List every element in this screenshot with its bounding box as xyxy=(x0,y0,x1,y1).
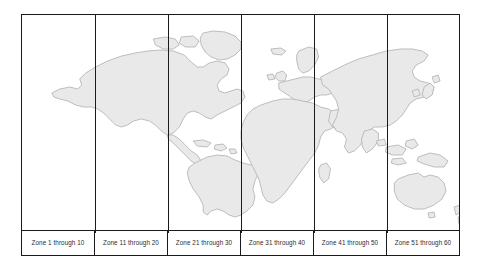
zone-label-cell-2: Zone 11 through 20 xyxy=(95,231,168,255)
southeast-asia-islands xyxy=(391,158,406,165)
arctic-islands xyxy=(153,37,179,49)
africa xyxy=(241,99,339,203)
british-isles xyxy=(275,71,287,81)
new-zealand xyxy=(454,205,459,215)
world-map-svg xyxy=(22,15,459,233)
zone-label-text: Zone 51 through 60 xyxy=(395,240,451,246)
zone-label-cell-6: Zone 51 through 60 xyxy=(387,231,459,255)
caribbean-islands xyxy=(229,149,237,154)
zone-label-cell-5: Zone 41 through 50 xyxy=(314,231,387,255)
zone-label-cell-1: Zone 1 through 10 xyxy=(22,231,95,255)
world-map-area xyxy=(22,15,459,233)
zone-label-cell-4: Zone 31 through 40 xyxy=(241,231,314,255)
greenland xyxy=(200,31,241,60)
zone-label-text: Zone 31 through 40 xyxy=(249,240,305,246)
southeast-asia-islands xyxy=(405,139,418,149)
zone-label-text: Zone 21 through 30 xyxy=(176,240,232,246)
japan xyxy=(432,75,440,83)
utm-zone-world-map: Zone 1 through 10 Zone 11 through 20 Zon… xyxy=(21,14,460,256)
british-isles xyxy=(267,74,275,80)
australia xyxy=(428,212,435,218)
southeast-asia-islands xyxy=(385,145,406,155)
zone-label-text: Zone 1 through 10 xyxy=(32,240,85,246)
caribbean-islands xyxy=(214,144,227,151)
zone-label-cell-3: Zone 21 through 30 xyxy=(168,231,241,255)
asia xyxy=(361,129,378,153)
zone-label-text: Zone 41 through 50 xyxy=(322,240,378,246)
madagascar xyxy=(319,163,331,183)
asia xyxy=(412,89,420,97)
caribbean-islands xyxy=(193,140,211,147)
north-america xyxy=(52,50,245,135)
arctic-islands xyxy=(179,36,199,47)
zone-label-row: Zone 1 through 10 Zone 11 through 20 Zon… xyxy=(22,230,459,255)
new-zealand xyxy=(458,216,459,224)
australia xyxy=(394,173,446,209)
central-america xyxy=(167,135,201,165)
scandinavia xyxy=(297,47,319,73)
iceland xyxy=(271,48,286,55)
new-guinea xyxy=(417,153,448,167)
south-america xyxy=(187,155,261,217)
zone-label-text: Zone 11 through 20 xyxy=(103,240,159,246)
